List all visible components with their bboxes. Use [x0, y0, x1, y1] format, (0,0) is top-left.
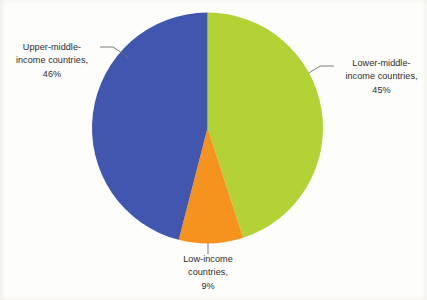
pie-label-upper-middle-income-value: 46%: [2, 68, 102, 81]
leader-line-lower-middle-income: [309, 66, 334, 73]
pie-label-lower-middle-income-line1: Lower-middle-: [336, 57, 427, 70]
pie-label-low-income-value: 9%: [153, 280, 263, 293]
pie-chart-figure: Upper-middle- income countries, 46% Lowe…: [0, 0, 427, 300]
pie-label-upper-middle-income-line2: income countries,: [2, 54, 102, 67]
pie-label-low-income-line2: countries,: [153, 266, 263, 279]
pie-label-upper-middle-income: Upper-middle- income countries, 46%: [2, 41, 102, 81]
pie-label-low-income: Low-income countries, 9%: [153, 253, 263, 293]
pie-label-lower-middle-income-line2: income countries,: [336, 70, 427, 83]
pie-label-upper-middle-income-line1: Upper-middle-: [2, 41, 102, 54]
pie-label-low-income-line1: Low-income: [153, 253, 263, 266]
pie-label-lower-middle-income-value: 45%: [336, 84, 427, 97]
pie-label-lower-middle-income: Lower-middle- income countries, 45%: [336, 57, 427, 97]
